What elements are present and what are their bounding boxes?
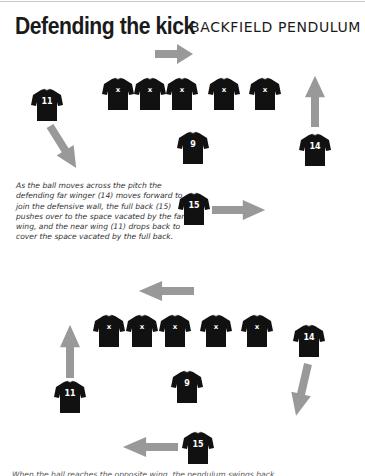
arrow-right-top [155, 44, 193, 64]
player-number: 14 [298, 142, 332, 151]
arrow-down-11 [42, 121, 85, 173]
arrow-left-15 [123, 437, 178, 457]
wall-player: x [101, 77, 135, 111]
player-number: x [158, 323, 192, 331]
player-9: 9 [170, 370, 204, 404]
shirt-icon [165, 77, 199, 111]
arrow-down-14 [286, 362, 317, 418]
arrow-up-14 [305, 76, 325, 127]
player-number: x [199, 323, 233, 331]
player-11: 11 [30, 88, 64, 122]
wall-player: x [240, 314, 274, 348]
player-number: x [207, 86, 241, 94]
wall-player: x [92, 314, 126, 348]
explanation-caption: As the ball moves across the pitch the d… [16, 181, 186, 243]
shirt-icon [240, 314, 274, 348]
player-number: x [240, 323, 274, 331]
player-14: 14 [298, 133, 332, 167]
shirt-icon [92, 314, 126, 348]
footer-caption: When the ball reaches the opposite wing,… [12, 470, 352, 476]
wall-player: x [248, 77, 282, 111]
arrow-up-11 [60, 325, 80, 378]
wall-player: x [207, 77, 241, 111]
player-number: x [92, 323, 126, 331]
player-number: 11 [30, 97, 64, 106]
player-number: x [165, 86, 199, 94]
shirt-icon [125, 314, 159, 348]
wall-player: x [133, 77, 167, 111]
player-15: 15 [181, 431, 215, 465]
shirt-icon [133, 77, 167, 111]
player-number: x [125, 323, 159, 331]
player-number: 14 [292, 333, 326, 342]
shirt-icon [101, 77, 135, 111]
player-11: 11 [53, 380, 87, 414]
player-number: 9 [170, 379, 204, 388]
wall-player: x [165, 77, 199, 111]
arrow-right-15 [212, 200, 265, 220]
wall-player: x [125, 314, 159, 348]
wall-player: x [199, 314, 233, 348]
player-number: 9 [176, 140, 210, 149]
shirt-icon [207, 77, 241, 111]
player-number: x [248, 86, 282, 94]
player-number: x [133, 86, 167, 94]
player-number: 15 [181, 440, 215, 449]
player-14: 14 [292, 324, 326, 358]
shirt-icon [158, 314, 192, 348]
player-9: 9 [176, 131, 210, 165]
shirt-icon [248, 77, 282, 111]
shirt-icon [199, 314, 233, 348]
arrow-left-bottom [139, 281, 194, 301]
player-number: 11 [53, 389, 87, 398]
player-number: x [101, 86, 135, 94]
wall-player: x [158, 314, 192, 348]
